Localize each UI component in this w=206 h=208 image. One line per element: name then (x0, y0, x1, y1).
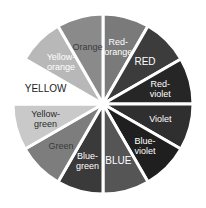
label-orange: Orange (73, 42, 103, 52)
label-yellow-orange: Yellow-orange (47, 52, 76, 72)
label-blue-violet: Blue-violet (134, 136, 156, 156)
label-green: Green (48, 141, 73, 151)
wheel-segments (13, 14, 193, 194)
label-yellow-green: Yellow-green (31, 109, 60, 129)
label-blue: BLUE (105, 155, 131, 166)
label-yellow: YELLOW (25, 83, 67, 94)
color-wheel: Red-orangeREDRed-violetVioletBlue-violet… (0, 0, 206, 208)
label-blue-green: Blue-green (76, 151, 99, 171)
label-red: RED (134, 56, 155, 67)
wheel-hub (98, 99, 108, 109)
label-violet: Violet (149, 114, 172, 124)
label-red-violet: Red-violet (150, 79, 172, 99)
